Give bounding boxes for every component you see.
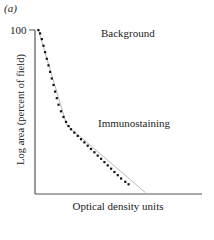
data-point: [100, 158, 102, 160]
data-point: [56, 97, 58, 99]
data-point: [128, 183, 130, 185]
data-point: [103, 161, 105, 163]
data-point: [120, 177, 122, 179]
x-axis-label: Optical density units: [0, 200, 214, 212]
data-point: [77, 135, 79, 137]
data-point: [90, 148, 92, 150]
data-point: [110, 168, 112, 170]
data-point: [39, 32, 41, 34]
data-point: [73, 132, 75, 134]
data-point: [37, 29, 39, 31]
data-point: [124, 181, 126, 183]
data-point: [67, 125, 69, 127]
y-axis-label: Log area (percent of field): [15, 35, 26, 185]
data-point: [107, 164, 109, 166]
data-point: [41, 38, 43, 40]
data-point: [65, 121, 67, 123]
data-point: [87, 145, 89, 147]
data-point: [51, 77, 53, 79]
data-point: [60, 110, 62, 112]
data-point: [80, 138, 82, 140]
data-point: [46, 58, 48, 60]
data-point: [49, 71, 51, 73]
data-point: [83, 141, 85, 143]
data-point: [44, 51, 46, 53]
annotation-background: Background: [101, 27, 155, 39]
data-point: [52, 84, 54, 86]
data-point: [117, 174, 119, 176]
data-point: [93, 151, 95, 153]
data-point: [113, 171, 115, 173]
annotation-immunostaining: Immunostaining: [98, 117, 170, 129]
data-point: [97, 155, 99, 157]
data-point: [57, 104, 59, 106]
data-point: [47, 64, 49, 66]
data-point: [70, 128, 72, 130]
data-points: [37, 29, 129, 185]
data-point: [54, 91, 56, 93]
trend-guide-line: [38, 30, 145, 192]
data-point: [62, 116, 64, 118]
data-point: [42, 45, 44, 47]
